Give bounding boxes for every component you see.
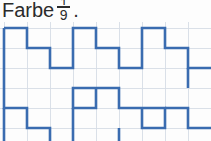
grid-figure-svg bbox=[0, 22, 211, 141]
instruction-punctuation: . bbox=[73, 0, 79, 20]
fraction: 1 9 bbox=[57, 0, 70, 22]
figure-path-segment bbox=[73, 88, 96, 108]
figure-path-segment bbox=[4, 28, 211, 68]
instruction-line: Farbe 1 9 . bbox=[2, 0, 79, 20]
grid-figure-area bbox=[0, 22, 211, 141]
figure-path-segment bbox=[165, 108, 211, 128]
instruction-word: Farbe bbox=[2, 0, 54, 20]
figure-outline bbox=[4, 28, 211, 141]
grid-lines bbox=[0, 22, 211, 141]
worksheet-snippet: Farbe 1 9 . bbox=[0, 0, 211, 141]
fraction-denominator: 9 bbox=[60, 8, 68, 22]
fraction-numerator: 1 bbox=[60, 0, 67, 5]
